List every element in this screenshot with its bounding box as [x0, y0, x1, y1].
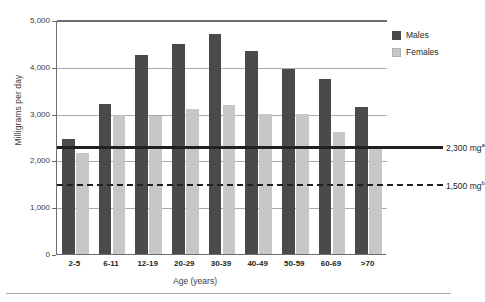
- bar-females-20-29: [186, 109, 199, 254]
- x-tick-label: 6-11: [93, 259, 130, 268]
- y-tick-label: 5,000: [18, 17, 50, 25]
- y-tick-mark: [52, 115, 56, 116]
- y-tick-label: 1,000: [18, 204, 50, 212]
- y-tick-label: 4,000: [18, 64, 50, 72]
- bar-group: [350, 20, 387, 254]
- x-tick-label: 50-59: [276, 259, 313, 268]
- y-tick-label: 2,000: [18, 157, 50, 165]
- reference-label-text: 1,500 mg: [446, 181, 481, 191]
- legend-label: Females: [406, 47, 439, 57]
- reference-line-1500: [57, 184, 443, 186]
- bar-males-60-69: [319, 79, 332, 254]
- bar-series-container: [57, 20, 387, 254]
- bar-males-12-19: [135, 55, 148, 254]
- y-tick-mark: [52, 21, 56, 22]
- y-tick-mark: [52, 161, 56, 162]
- plot-area: [56, 21, 386, 255]
- reference-label-footnote: a: [481, 142, 484, 148]
- reference-line-2300: [57, 146, 443, 148]
- bar-females->70: [369, 147, 382, 254]
- x-tick-label: 12-19: [129, 259, 166, 268]
- x-axis-title: Age (years): [0, 276, 390, 286]
- y-tick-mark: [52, 208, 56, 209]
- bar-group: [204, 20, 241, 254]
- bar-females-30-39: [223, 105, 236, 254]
- reference-label: 1,500 mgb: [446, 180, 485, 191]
- legend-item: Males: [392, 30, 439, 40]
- reference-label-text: 2,300 mg: [446, 143, 481, 153]
- x-tick-label: 20-29: [166, 259, 203, 268]
- legend-item: Females: [392, 47, 439, 57]
- x-tick-label: 60-69: [313, 259, 350, 268]
- bar-males-40-49: [245, 51, 258, 254]
- x-tick-label: 30-39: [203, 259, 240, 268]
- bar-group: [277, 20, 314, 254]
- legend-swatch-males: [392, 31, 401, 40]
- bar-males-30-39: [209, 34, 222, 254]
- bar-females-2-5: [76, 153, 89, 254]
- bar-females-60-69: [333, 132, 346, 254]
- y-tick-label: 3,000: [18, 111, 50, 119]
- x-tick-label: 2-5: [56, 259, 93, 268]
- bar-group: [314, 20, 351, 254]
- bar-group: [94, 20, 131, 254]
- footnote-divider: [6, 293, 451, 294]
- y-tick-mark: [52, 255, 56, 256]
- x-tick-label: 40-49: [239, 259, 276, 268]
- legend-label: Males: [406, 30, 429, 40]
- bar-males-20-29: [172, 44, 185, 254]
- bar-males-50-59: [282, 69, 295, 254]
- reference-label-footnote: b: [481, 180, 484, 186]
- bar-group: [240, 20, 277, 254]
- bar-males->70: [355, 107, 368, 254]
- y-tick-label: 0: [18, 251, 50, 259]
- y-tick-mark: [52, 68, 56, 69]
- bar-males-2-5: [62, 139, 75, 254]
- reference-label: 2,300 mga: [446, 142, 485, 153]
- bar-males-6-11: [99, 104, 112, 254]
- x-tick-label: >70: [349, 259, 386, 268]
- chart-legend: MalesFemales: [392, 30, 439, 64]
- bar-group: [167, 20, 204, 254]
- legend-swatch-females: [392, 48, 401, 57]
- bar-group: [130, 20, 167, 254]
- bar-group: [57, 20, 94, 254]
